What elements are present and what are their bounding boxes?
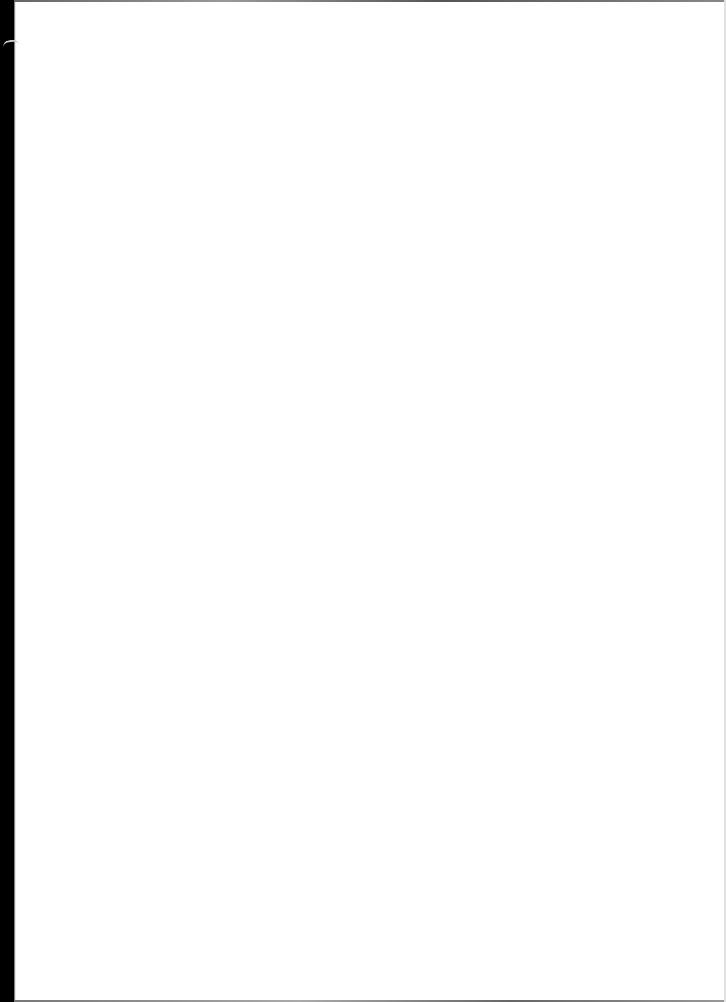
blank-page-body — [14, 2, 724, 1000]
scanned-page — [0, 0, 726, 1002]
scan-left-edge-shadow — [0, 0, 14, 1002]
